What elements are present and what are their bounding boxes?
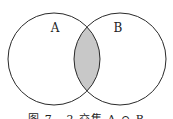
set-b-label: B <box>114 21 123 35</box>
figure-caption: 图 7 - 2 交集 A ∩ B <box>0 110 173 119</box>
venn-diagram: A B <box>0 0 173 119</box>
set-a-label: A <box>50 21 60 35</box>
